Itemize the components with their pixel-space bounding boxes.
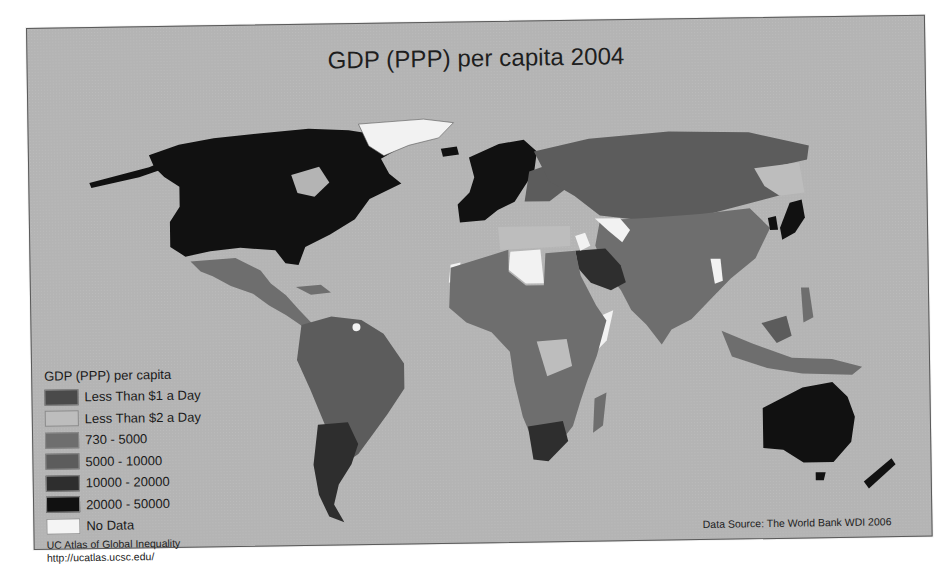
- credit-org: UC Atlas of Global Inequality: [47, 537, 203, 550]
- region-madagascar: [592, 392, 607, 432]
- legend: GDP (PPP) per capita Less Than $1 a Day …: [44, 366, 203, 563]
- legend-swatch: [45, 432, 79, 449]
- legend-swatch: [46, 475, 80, 492]
- legend-swatch: [45, 411, 79, 428]
- legend-item: 20000 - 50000: [46, 492, 202, 516]
- region-south-africa: [528, 421, 569, 462]
- legend-label: No Data: [86, 518, 134, 534]
- legend-item: 5000 - 10000: [45, 449, 201, 473]
- region-mexico: [190, 257, 311, 329]
- region-tasmania: [816, 472, 826, 480]
- region-western-europe: [457, 139, 538, 222]
- region-southern-cone: [313, 422, 359, 523]
- legend-label: 730 - 5000: [85, 431, 147, 447]
- legend-label: Less Than $2 a Day: [85, 409, 201, 426]
- legend-label: 20000 - 50000: [86, 496, 170, 512]
- legend-title: GDP (PPP) per capita: [44, 366, 200, 383]
- legend-label: 10000 - 20000: [86, 474, 170, 490]
- region-borneo: [761, 316, 791, 343]
- legend-swatch: [44, 389, 78, 406]
- region-iceland: [441, 147, 459, 157]
- map-frame: GDP (PPP) per capita 2004: [26, 15, 933, 550]
- region-australia: [762, 382, 855, 463]
- legend-item: Less Than $1 a Day: [44, 384, 200, 408]
- legend-swatch: [46, 497, 80, 514]
- legend-item: 10000 - 20000: [46, 470, 202, 494]
- region-caribbean: [296, 285, 331, 296]
- region-north-africa-light: [498, 226, 570, 250]
- region-indonesia: [722, 329, 863, 377]
- legend-item: 730 - 5000: [45, 427, 201, 451]
- legend-swatch: [46, 518, 80, 535]
- legend-label: 5000 - 10000: [85, 453, 162, 469]
- credit-url: http://ucatlas.ucsc.edu/: [47, 550, 203, 563]
- legend-swatch: [45, 454, 79, 471]
- region-iraq: [575, 233, 590, 251]
- legend-item: Less Than $2 a Day: [45, 406, 201, 430]
- region-north-america: [149, 127, 403, 267]
- region-japan: [780, 199, 806, 239]
- region-new-zealand: [863, 458, 895, 488]
- legend-label: Less Than $1 a Day: [84, 388, 200, 405]
- legend-item: No Data: [46, 513, 202, 537]
- region-philippines: [801, 287, 814, 322]
